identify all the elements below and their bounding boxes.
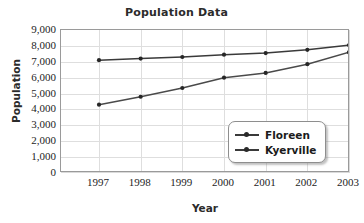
y-tick-label: 1,000 [4,150,56,162]
x-tick-label: 1999 [158,176,204,188]
data-point [139,57,143,61]
data-point [264,51,268,55]
data-point [222,53,226,57]
data-point [222,76,226,80]
y-axis-tick-labels: 01,0002,0003,0004,0005,0006,0007,0008,00… [0,29,56,172]
data-point [305,62,309,66]
x-axis-tick-labels: 1997199819992000200120022003 [60,176,349,194]
legend-label: Kyerville [265,144,316,156]
legend-marker-icon [235,145,259,155]
x-tick-label: 2000 [200,176,246,188]
y-tick-label: 9,000 [4,23,56,35]
y-tick-label: 3,000 [4,118,56,130]
data-point [180,86,184,90]
x-tick-label: 2003 [325,176,364,188]
data-point [180,55,184,59]
y-tick-label: 5,000 [4,87,56,99]
x-axis-title: Year [60,202,350,214]
legend-marker-icon [235,130,259,140]
chart-title: Population Data [0,6,353,19]
data-point [347,50,348,54]
legend-item-floreen: Floreen [235,127,316,142]
legend-label: Floreen [265,129,310,141]
data-point [305,48,309,52]
data-point [97,58,101,62]
data-point [97,103,101,107]
y-tick-label: 2,000 [4,134,56,146]
x-tick-label: 2002 [283,176,329,188]
x-tick-label: 1998 [117,176,163,188]
y-tick-label: 0 [4,166,56,178]
y-tick-label: 6,000 [4,71,56,83]
x-tick-label: 2001 [242,176,288,188]
y-tick-label: 4,000 [4,102,56,114]
y-tick-label: 7,000 [4,55,56,67]
chart-legend: FloreenKyerville [228,121,326,163]
legend-item-kyerville: Kyerville [235,142,316,157]
data-point [264,71,268,75]
data-point [347,43,348,47]
y-tick-label: 8,000 [4,39,56,51]
x-tick-label: 1997 [75,176,121,188]
data-point [139,95,143,99]
